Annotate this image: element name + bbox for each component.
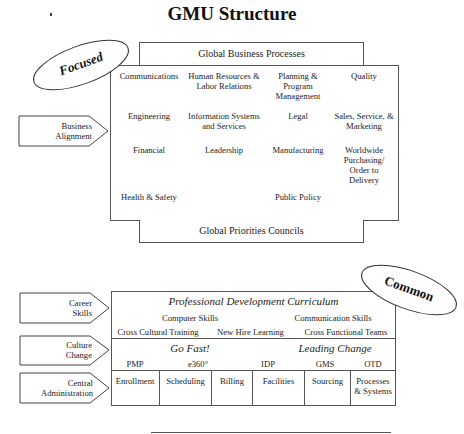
arrow-label: Business Alignment bbox=[22, 121, 92, 141]
arrow-label-line: Career bbox=[22, 298, 92, 308]
arrow-label-line: Alignment bbox=[22, 131, 92, 141]
arrow-label-line: Change bbox=[22, 350, 92, 360]
arrow-label-line: Culture bbox=[22, 340, 92, 350]
arrow-label-line: Skills bbox=[22, 308, 92, 318]
arrow-label-line: Central bbox=[18, 378, 93, 388]
arrow-label: Career Skills bbox=[22, 298, 92, 318]
arrow-label: Central Administration bbox=[18, 378, 93, 398]
arrow-label-line: Administration bbox=[18, 388, 93, 398]
arrow-label: Culture Change bbox=[22, 340, 92, 360]
arrow-label-line: Business bbox=[22, 121, 92, 131]
